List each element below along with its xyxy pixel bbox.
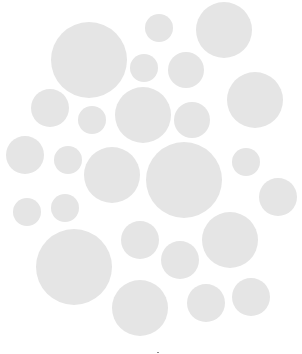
circle-shape: [13, 198, 41, 226]
circle-shape: [174, 102, 210, 138]
circle-shape: [54, 146, 82, 174]
circle-shape: [187, 284, 225, 322]
circle-shape: [259, 178, 297, 216]
circle-shape: [51, 22, 127, 98]
circle-shape: [31, 89, 69, 127]
circle-shape: [145, 14, 173, 42]
circle-shape: [115, 87, 171, 143]
circle-shape: [36, 229, 112, 305]
circle-shape: [168, 52, 204, 88]
circle-shape: [84, 147, 140, 203]
circle-pattern-canvas: [0, 0, 302, 354]
circle-shape: [78, 106, 106, 134]
circle-shape: [196, 2, 252, 58]
circle-shape: [121, 221, 159, 259]
circle-shape: [130, 54, 158, 82]
circle-shape: [51, 194, 79, 222]
circle-shape: [232, 278, 270, 316]
tiny-mark: [157, 352, 159, 353]
circle-shape: [146, 142, 222, 218]
circle-shape: [112, 280, 168, 336]
circle-shape: [232, 148, 260, 176]
circle-shape: [161, 241, 199, 279]
circle-shape: [227, 72, 283, 128]
circle-shape: [6, 136, 44, 174]
circle-shape: [202, 212, 258, 268]
